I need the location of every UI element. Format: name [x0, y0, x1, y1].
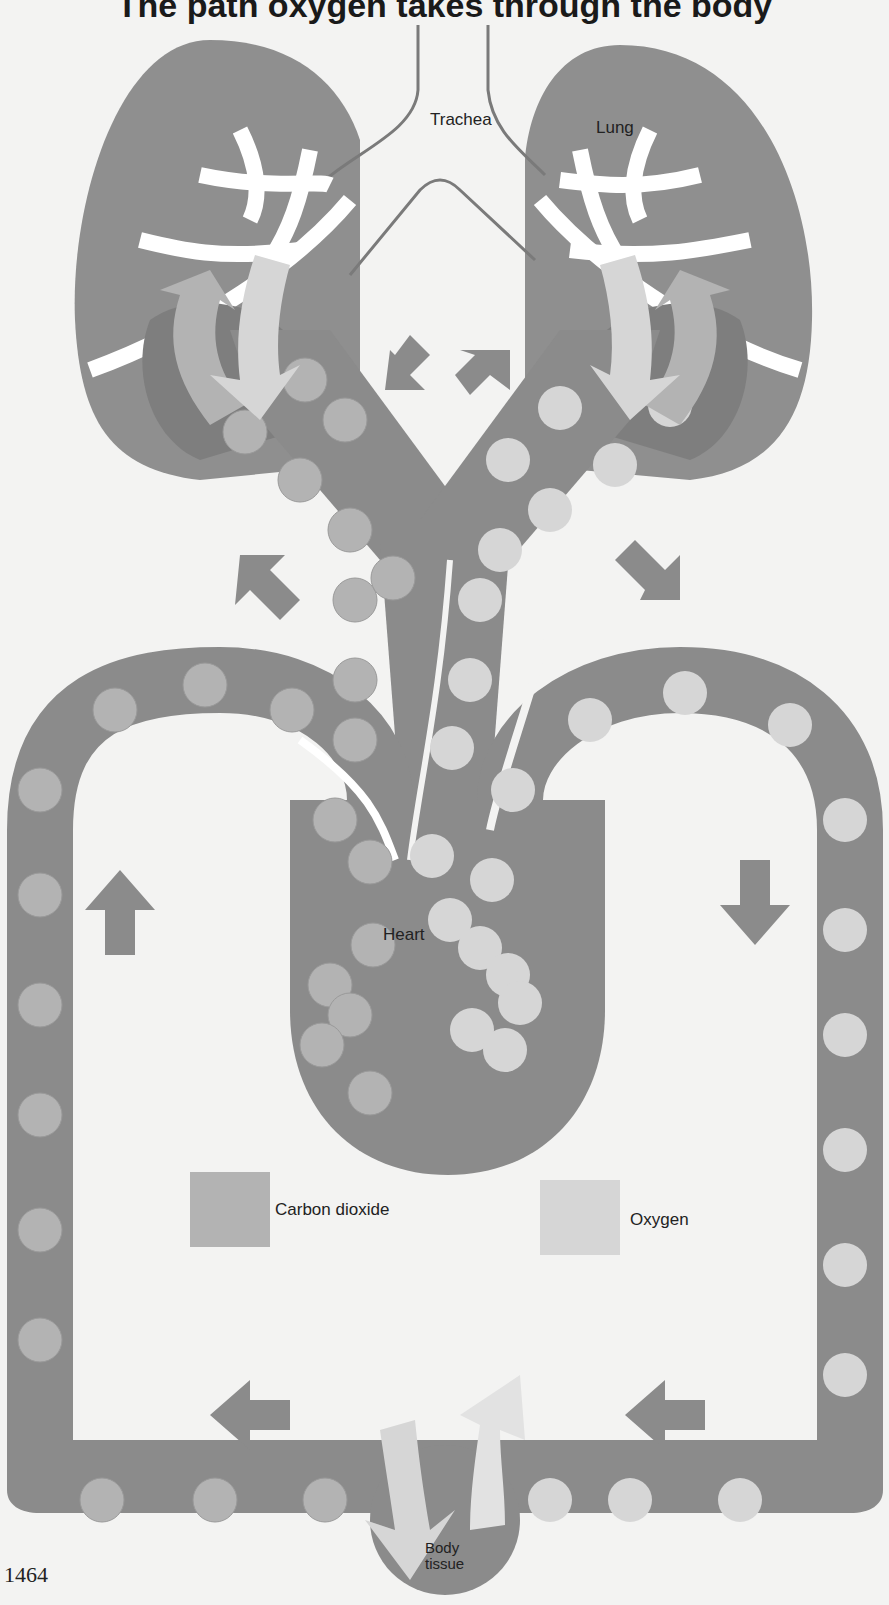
up-arrow-icon	[85, 870, 155, 955]
page-number: 1464	[4, 1562, 48, 1588]
label-lung: Lung	[596, 118, 634, 138]
legend-label-carbon-dioxide: Carbon dioxide	[275, 1200, 389, 1220]
down-right-arrow-icon	[385, 335, 430, 390]
up-left-arrow-icon	[235, 555, 300, 620]
left-arrow-icon	[625, 1380, 705, 1450]
down-left-arrow-icon	[615, 540, 680, 600]
bronchi-outline	[350, 180, 535, 275]
legend-swatch-oxygen	[540, 1180, 620, 1255]
down-arrow-icon	[720, 860, 790, 945]
left-arrow-icon	[210, 1380, 290, 1450]
label-body-tissue: Body tissue	[425, 1540, 464, 1572]
legend-label-oxygen: Oxygen	[630, 1210, 689, 1230]
up-right-arrow-icon	[455, 350, 510, 395]
label-heart: Heart	[383, 925, 425, 945]
carbon-dioxide-cells	[18, 358, 415, 1522]
label-trachea: Trachea	[430, 110, 492, 130]
legend-swatch-carbon-dioxide	[190, 1172, 270, 1247]
circulation-diagram	[0, 0, 889, 1605]
